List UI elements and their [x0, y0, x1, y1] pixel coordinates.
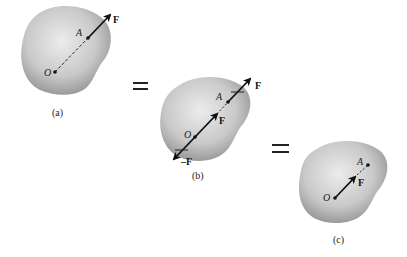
force-transmissibility-diagram: O A F (a) O A F F –F (b) O: [0, 0, 407, 257]
force-label: F: [358, 177, 364, 188]
equals-sign-1: [133, 82, 148, 90]
point-o-dot: [193, 135, 197, 139]
force-label-mid: F: [219, 115, 225, 126]
point-a-dot: [366, 163, 370, 167]
panel-a: O A F (a): [21, 6, 119, 119]
point-a-label: A: [75, 27, 83, 38]
force-label-neg: –F: [180, 156, 192, 167]
force-label: F: [113, 14, 119, 25]
caption-c: (c): [333, 234, 344, 246]
point-o-label: O: [323, 192, 330, 203]
point-o-label: O: [184, 129, 191, 140]
point-a-dot: [226, 100, 230, 104]
caption-a: (a): [52, 107, 63, 119]
point-a-label: A: [356, 156, 364, 167]
panel-b: O A F F –F (b): [160, 77, 261, 182]
caption-b: (b): [192, 170, 204, 182]
point-a-label: A: [215, 91, 223, 102]
point-a-dot: [86, 36, 90, 40]
point-o-dot: [53, 70, 57, 74]
panel-c: O A F (c): [299, 141, 387, 246]
rigid-body-shape: [160, 77, 250, 161]
equals-sign-2: [272, 144, 289, 153]
point-o-label: O: [44, 67, 51, 78]
rigid-body-shape: [21, 6, 111, 95]
rigid-body-shape: [299, 141, 387, 223]
point-o-dot: [333, 196, 337, 200]
force-label-top: F: [255, 80, 261, 91]
